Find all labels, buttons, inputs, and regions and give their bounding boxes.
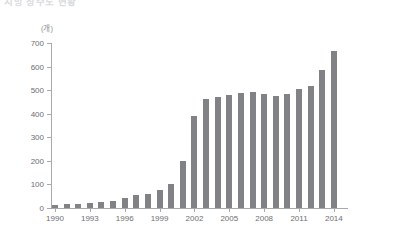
bar — [87, 203, 93, 208]
bar — [203, 99, 209, 208]
x-axis-line — [51, 208, 348, 209]
y-axis-tick-mark — [47, 43, 51, 44]
y-axis-tick-label: 600 — [14, 62, 44, 71]
x-axis-tick-mark — [160, 209, 161, 212]
y-axis-tick-mark — [47, 184, 51, 185]
x-axis-tick-label: 2005 — [212, 214, 246, 223]
bar — [226, 95, 232, 208]
bar — [133, 195, 139, 208]
x-axis-tick-label: 2002 — [177, 214, 211, 223]
y-axis-tick-mark — [47, 67, 51, 68]
x-axis-tick-label: 1999 — [143, 214, 177, 223]
x-axis-tick-mark — [334, 209, 335, 212]
y-axis-tick-mark — [47, 161, 51, 162]
x-axis-tick-mark — [55, 209, 56, 212]
x-axis-tick-label: 2011 — [282, 214, 316, 223]
y-axis-tick-mark — [47, 208, 51, 209]
y-axis-tick-label: 300 — [14, 133, 44, 142]
bar — [261, 94, 267, 208]
bar — [122, 198, 128, 208]
x-axis-tick-label: 1996 — [108, 214, 142, 223]
bar — [64, 204, 70, 208]
x-axis-tick-mark — [90, 209, 91, 212]
y-axis-tick-label: 400 — [14, 109, 44, 118]
bar — [110, 201, 116, 208]
plot-area: (개) 0100200300400500600700 1990199319961… — [0, 0, 394, 250]
x-axis-tick-label: 1990 — [38, 214, 72, 223]
x-axis-tick-label: 2014 — [317, 214, 351, 223]
y-axis-line — [51, 43, 52, 209]
x-axis-tick-label: 1993 — [73, 214, 107, 223]
x-axis-tick-label: 2008 — [247, 214, 281, 223]
x-axis-tick-mark — [194, 209, 195, 212]
bar — [145, 194, 151, 208]
x-axis-tick-mark — [229, 209, 230, 212]
bar — [284, 94, 290, 208]
bar — [296, 89, 302, 208]
bar — [308, 86, 314, 208]
x-axis-tick-mark — [264, 209, 265, 212]
y-axis-tick-label: 200 — [14, 156, 44, 165]
y-axis-tick-label: 500 — [14, 86, 44, 95]
bar — [238, 93, 244, 208]
bar — [180, 161, 186, 208]
bar — [273, 96, 279, 208]
bar — [168, 184, 174, 208]
bar — [52, 205, 58, 208]
x-axis-tick-mark — [299, 209, 300, 212]
bar — [215, 97, 221, 208]
y-axis-tick-label: 700 — [14, 39, 44, 48]
bar — [191, 116, 197, 208]
bar — [157, 190, 163, 208]
y-axis-tick-label: 0 — [14, 204, 44, 213]
x-axis-tick-mark — [125, 209, 126, 212]
chart-container: 지방 상수도 현황 (개) 0100200300400500600700 199… — [0, 0, 394, 250]
bar — [250, 92, 256, 208]
y-axis-unit-label: (개) — [41, 22, 53, 33]
bar — [331, 51, 337, 208]
bar — [319, 70, 325, 208]
y-axis-tick-mark — [47, 137, 51, 138]
bar — [98, 202, 104, 208]
y-axis-tick-mark — [47, 90, 51, 91]
y-axis-tick-mark — [47, 114, 51, 115]
y-axis-tick-label: 100 — [14, 180, 44, 189]
bar — [75, 204, 81, 208]
